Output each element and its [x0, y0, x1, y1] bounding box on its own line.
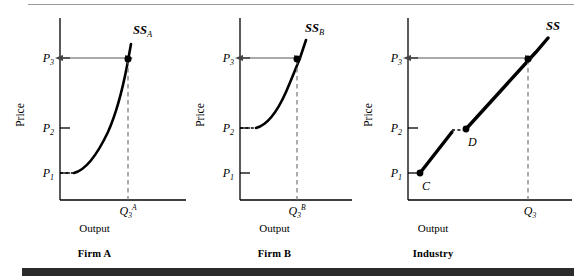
ylabel-p1-firm-b: P1	[222, 166, 234, 182]
ylabel-p3-industry: P3	[390, 51, 402, 67]
caption-industry: Industry	[318, 248, 548, 259]
x-axis-title-firm-a: Output	[2, 222, 187, 234]
xlabel-q3-firm-a-sup: A	[131, 203, 137, 212]
curve-label-firm-b: SSB	[305, 21, 324, 37]
xlabel-q3-firm-a: Q3A	[119, 203, 136, 220]
top-divider-rule	[28, 4, 574, 5]
ylabel-p3-industry-sub: 3	[397, 58, 402, 67]
ylabel-p2-industry: P2	[390, 121, 402, 137]
curve-label-industry: SS	[546, 19, 560, 33]
equilibrium-point-firm-b	[294, 56, 301, 63]
supply-segment-d-industry	[466, 38, 548, 129]
ylabel-p1-firm-b-sub: 1	[230, 173, 234, 182]
supply-curve-firm-a	[74, 44, 131, 173]
ylabel-p3-firm-b: P3	[222, 51, 234, 67]
curve-label-text-industry: SS	[546, 19, 560, 33]
ylabel-p2-firm-b-sub: 2	[230, 128, 234, 137]
xlabel-q3-firm-b-text: Q	[288, 204, 297, 218]
bottom-divider-bar	[22, 268, 574, 276]
ylabel-p2-firm-b: P2	[222, 121, 234, 137]
xlabel-q3-firm-b-sub: 3	[296, 211, 301, 220]
point-d-marker-industry	[463, 126, 470, 133]
chart-firm-a: SSA P3 P2 P1 Q3A Price	[2, 10, 187, 245]
xlabel-q3-firm-b: Q3B	[288, 203, 305, 220]
x-axis-title-industry: Output	[318, 222, 548, 234]
ylabel-p3-firm-b-sub: 3	[229, 58, 234, 67]
xlabel-q3-firm-b-sup: B	[301, 203, 306, 212]
xlabel-q3-industry-sub: 3	[531, 211, 536, 220]
supply-segment-c-industry	[420, 132, 452, 173]
ylabel-p3-firm-a: P3	[42, 51, 54, 67]
xlabel-q3-industry-text: Q	[524, 204, 533, 218]
ylabel-p2-industry-sub: 2	[398, 128, 402, 137]
xlabel-q3-industry: Q3	[524, 204, 537, 220]
point-label-d-industry: D	[467, 135, 477, 149]
supply-curve-firm-b	[256, 40, 306, 128]
ylabel-p1-firm-a-sub: 1	[50, 173, 54, 182]
y-axis-title-firm-b: Price	[194, 103, 206, 127]
curve-label-sub-firm-a: A	[146, 29, 153, 39]
ylabel-p2-firm-a: P2	[42, 121, 54, 137]
y-axis-title-firm-a: Price	[14, 103, 26, 127]
chart-firm-b: SSB P3 P2 P1 Q3B Price	[182, 10, 367, 245]
ylabel-p2-firm-a-sub: 2	[50, 128, 54, 137]
equilibrium-point-industry	[525, 56, 532, 63]
curve-label-text-firm-b: SS	[305, 21, 319, 35]
point-c-marker-industry	[417, 170, 424, 177]
caption-firm-a: Firm A	[2, 248, 187, 259]
equilibrium-point-firm-a	[125, 56, 132, 63]
panel-industry: SS C D P3 P2 P1 Q3 Price Output Industry	[350, 10, 580, 260]
curve-label-firm-a: SSA	[133, 23, 153, 39]
ylabel-p1-firm-a: P1	[42, 166, 54, 182]
curve-label-sub-firm-b: B	[319, 27, 324, 37]
ylabel-p1-industry: P1	[390, 166, 402, 182]
ylabel-p3-firm-a-sub: 3	[49, 58, 54, 67]
xlabel-q3-firm-a-sub: 3	[127, 211, 132, 220]
chart-industry: SS C D P3 P2 P1 Q3 Price	[350, 10, 580, 245]
point-label-c-industry: C	[422, 179, 431, 193]
y-axis-title-industry: Price	[362, 103, 374, 127]
ylabel-p1-industry-sub: 1	[398, 173, 402, 182]
curve-label-text-firm-a: SS	[133, 23, 147, 37]
xlabel-q3-firm-a-text: Q	[119, 204, 128, 218]
supply-curves-figure: SSA P3 P2 P1 Q3A Price Output Firm A	[0, 0, 580, 279]
panel-firm-a: SSA P3 P2 P1 Q3A Price Output Firm A	[2, 10, 187, 260]
